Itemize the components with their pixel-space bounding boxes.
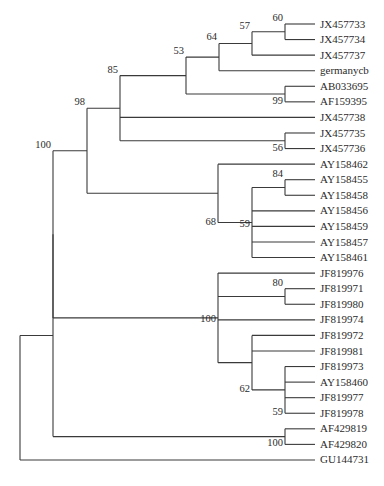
leaf-label: AY158460 bbox=[320, 376, 368, 388]
support-value-n59a: 59 bbox=[240, 218, 251, 229]
leaf-label: JF819972 bbox=[320, 329, 363, 341]
leaf-label: AY158456 bbox=[320, 204, 368, 216]
support-value-n80: 80 bbox=[273, 277, 284, 288]
leaf-label: AF159395 bbox=[320, 95, 368, 107]
support-value-n56: 56 bbox=[273, 142, 284, 153]
leaf-label: JF819974 bbox=[320, 313, 364, 325]
leaf-label: AY158462 bbox=[320, 158, 368, 170]
leaf-label: JF819981 bbox=[320, 345, 363, 357]
leaf-label: AY158461 bbox=[320, 251, 368, 263]
leaf-label: JX457736 bbox=[320, 142, 366, 154]
leaf-label: JX457734 bbox=[320, 33, 366, 45]
tree-branches bbox=[20, 24, 315, 460]
support-value-n100b: 100 bbox=[35, 139, 51, 150]
leaf-label: germanycb bbox=[320, 64, 369, 76]
leaf-label: AB033695 bbox=[320, 80, 369, 92]
leaf-label: JF819977 bbox=[320, 391, 364, 403]
leaf-label: JF819980 bbox=[320, 298, 364, 310]
support-value-n62: 62 bbox=[240, 383, 251, 394]
support-value-n59b: 59 bbox=[273, 406, 284, 417]
leaf-label: GU144731 bbox=[320, 453, 369, 465]
leaf-labels: JX457733JX457734JX457737germanycbAB03369… bbox=[320, 18, 369, 466]
leaf-label: JX457738 bbox=[320, 111, 366, 123]
support-value-n98: 98 bbox=[75, 96, 86, 107]
support-value-n53: 53 bbox=[174, 45, 185, 56]
support-value-n100c: 100 bbox=[267, 437, 283, 448]
leaf-label: AY158455 bbox=[320, 173, 368, 185]
leaf-label: AY158457 bbox=[320, 236, 368, 248]
leaf-label: JX457737 bbox=[320, 49, 366, 61]
leaf-label: JX457733 bbox=[320, 18, 366, 30]
leaf-label: JF819973 bbox=[320, 360, 364, 372]
leaf-label: JF819971 bbox=[320, 282, 363, 294]
support-value-n60: 60 bbox=[273, 12, 284, 23]
support-value-n85: 85 bbox=[108, 64, 119, 75]
leaf-label: AF429819 bbox=[320, 422, 368, 434]
support-value-n84: 84 bbox=[273, 168, 284, 179]
leaf-label: JX457735 bbox=[320, 127, 366, 139]
leaf-label: JF819978 bbox=[320, 407, 364, 419]
leaf-label: AY158459 bbox=[320, 220, 368, 232]
phylogenetic-tree: 6057649953568584596898805962100100100 JX… bbox=[0, 0, 384, 486]
leaf-label: JF819976 bbox=[320, 267, 364, 279]
bootstrap-support-values: 6057649953568584596898805962100100100 bbox=[35, 12, 284, 448]
support-value-n57: 57 bbox=[240, 20, 251, 31]
leaf-label: AY158458 bbox=[320, 189, 368, 201]
leaf-label: AF429820 bbox=[320, 438, 368, 450]
support-value-n64: 64 bbox=[207, 31, 218, 42]
support-value-n100a: 100 bbox=[200, 313, 216, 324]
support-value-n68: 68 bbox=[206, 216, 217, 227]
support-value-n99: 99 bbox=[273, 95, 284, 106]
